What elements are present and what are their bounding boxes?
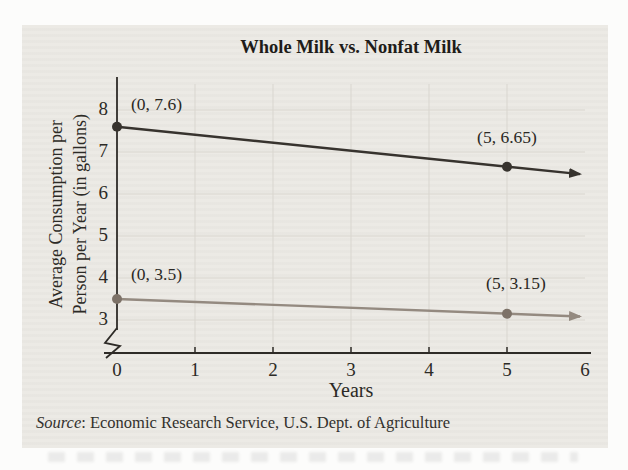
page-bleed-through-smudge [48,452,578,462]
y-tick-label: 3 [78,308,108,330]
y-tick-label: 4 [78,266,108,288]
whole-milk-data-point [502,162,512,172]
x-tick-label: 0 [102,359,132,381]
x-tick-label: 6 [570,359,600,381]
nonfat-milk-data-point [502,309,512,319]
source-credit: Source: Economic Research Service, U.S. … [36,413,450,433]
y-tick-label: 7 [78,140,108,162]
y-tick-label: 8 [78,98,108,120]
source-credit-prefix: Source [36,413,81,432]
source-credit-text: : Economic Research Service, U.S. Dept. … [81,413,450,432]
nonfat-milk-data-point [112,294,122,304]
y-tick-label: 5 [78,224,108,246]
x-tick-label: 1 [180,359,210,381]
y-tick-label: 6 [78,182,108,204]
point-coordinate-label: (0, 7.6) [131,94,182,115]
x-tick-label: 4 [414,359,444,381]
scanned-textbook-page: Whole Milk vs. Nonfat Milk Average Consu… [0,0,628,470]
point-coordinate-label: (5, 3.15) [456,273,576,294]
whole-milk-data-point [112,122,122,132]
point-coordinate-label: (5, 6.65) [447,127,567,148]
x-tick-label: 5 [492,359,522,381]
x-axis-title: Years [117,379,585,402]
x-tick-label: 3 [336,359,366,381]
x-tick-label: 2 [258,359,288,381]
point-coordinate-label: (0, 3.5) [131,264,182,285]
y-axis-title-line1: Average Consumption per [44,74,68,354]
